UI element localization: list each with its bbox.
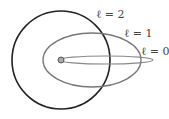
- label-l0: ℓ = 0: [141, 45, 169, 58]
- label-l2: ℓ = 2: [96, 8, 124, 21]
- nucleus: [58, 57, 64, 63]
- label-l1: ℓ = 1: [124, 27, 152, 40]
- orbit-l0: [59, 56, 153, 64]
- orbit-diagram: [0, 0, 169, 119]
